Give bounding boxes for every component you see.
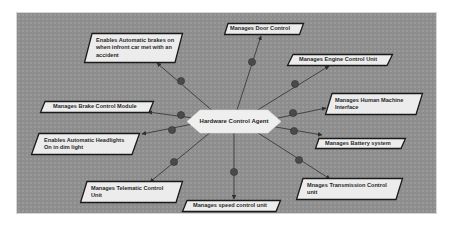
node-automatic-headlights[interactable]: Enables Automatic Headlights On in dim l… — [31, 133, 140, 155]
node-label: Manages speed control unit — [193, 202, 267, 209]
edge-agent-n6 — [142, 124, 193, 134]
edge-dot-n7 — [290, 127, 297, 134]
node-battery-system[interactable]: Manages Battery system — [315, 138, 406, 149]
edge-dot-n9 — [295, 156, 302, 163]
node-engine-control-unit[interactable]: Manages Engine Control Unit — [287, 54, 393, 66]
hardware-control-agent-node[interactable]: Hardware Control Agent — [187, 110, 281, 133]
edge-agent-n3 — [256, 66, 329, 111]
node-label: Mnages Transmission Control unit — [307, 182, 387, 197]
node-label: Enables Automatic brakes on when infront… — [96, 37, 174, 59]
node-automatic-brakes[interactable]: Enables Automatic brakes on when infront… — [84, 33, 183, 63]
edge-agent-n2 — [237, 36, 261, 110]
edge-dot-n3 — [291, 80, 298, 87]
node-label: Enables Automatic Headlights On in dim l… — [44, 137, 124, 152]
edge-agent-n4 — [278, 108, 326, 118]
node-transmission-control-unit[interactable]: Mnages Transmission Control unit — [296, 178, 403, 200]
node-label: Manages Telematic Control Unit — [91, 185, 163, 200]
edge-dot-n2 — [248, 58, 255, 65]
node-human-machine-interface[interactable]: Manages Human Machine Interface — [325, 93, 423, 115]
edge-dot-n5 — [177, 111, 184, 118]
edge-agent-n1 — [157, 63, 215, 113]
node-speed-control-unit[interactable]: Manages speed control unit — [182, 200, 281, 212]
edge-dot-n6 — [168, 126, 175, 133]
agent-label: Hardware Control Agent — [187, 118, 281, 125]
node-label: Manages Engine Control Unit — [299, 56, 377, 63]
node-label: Manages Battery system — [325, 140, 391, 147]
node-label: Manages Door Control — [230, 25, 290, 32]
node-telematic-control-unit[interactable]: Manages Telematic Control Unit — [80, 181, 183, 203]
edge-dot-n1 — [177, 77, 184, 84]
edge-dot-n4 — [289, 109, 296, 116]
edge-dot-n8 — [170, 158, 177, 165]
edge-agent-n8 — [150, 131, 212, 182]
edge-dot-n10 — [230, 168, 237, 175]
node-label: Manages Human Machine Interface — [335, 97, 403, 112]
node-door-control[interactable]: Manages Door Control — [224, 23, 304, 35]
node-brake-control-module[interactable]: Manages Brake Control Module — [40, 101, 154, 113]
node-label: Manages Brake Control Module — [53, 103, 137, 110]
